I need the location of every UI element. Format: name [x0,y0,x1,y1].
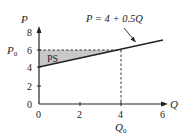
equation-label: P = 4 + 0.5Q [85,13,143,24]
x-axis-arrow-icon [161,102,168,107]
x-tick-label-2: 2 [77,109,82,120]
q0-label: Q0 [115,121,127,135]
x-tick-label-4: 4 [118,109,123,120]
y-tick-label-4: 4 [27,62,32,73]
y-tick-label-8: 8 [27,27,32,38]
x-tick-label-0: 0 [36,109,41,120]
p0-label: P0 [6,44,18,58]
chart-canvas: P Q 8 6 4 2 0 0 2 4 6 P0 Q0 PS P = 4 + 0… [0,0,185,140]
x-tick-label-6: 6 [160,109,165,120]
y-tick-label-0: 0 [27,99,32,110]
ps-label: PS [47,53,58,64]
x-axis-label: Q [170,98,178,110]
y-tick-label-2: 2 [27,81,32,92]
pointer-arrowhead-icon [131,37,137,43]
y-tick-label-6: 6 [27,45,32,56]
y-axis-label: P [20,13,28,25]
